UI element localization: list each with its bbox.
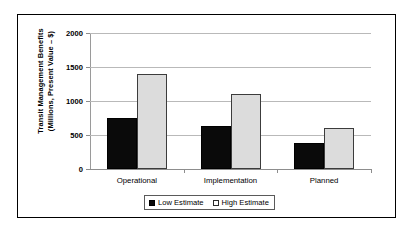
open-square-icon [213, 200, 219, 206]
y-axis-tick-mark [86, 67, 90, 68]
bar-low-estimate [294, 143, 324, 169]
y-axis-title-line-1: Transit Management Benefits [36, 28, 46, 133]
x-axis-tick-mark [184, 169, 185, 173]
bar-high-estimate [137, 74, 167, 169]
y-axis-tick-label: 1000 [66, 97, 83, 106]
plot-area: 2000150010005000 OperationalImplementati… [90, 33, 371, 169]
gridline [90, 169, 371, 170]
filled-square-icon [149, 200, 155, 206]
y-axis-title-line-2: (Millions, Present Value – $) [46, 31, 56, 131]
y-axis-title: Transit Management Benefits (Millions, P… [32, 6, 60, 156]
gridline [90, 33, 371, 34]
gridline [90, 67, 371, 68]
legend-label-low-estimate: Low Estimate [158, 198, 204, 207]
x-axis-label-operational: Operational [117, 176, 157, 185]
bar-low-estimate [201, 126, 231, 169]
legend-entry-high-estimate: High Estimate [213, 198, 269, 207]
legend-label-high-estimate: High Estimate [222, 198, 269, 207]
y-axis-tick-mark [86, 169, 90, 170]
legend-entry-low-estimate: Low Estimate [149, 198, 204, 207]
y-axis-tick-label: 0 [79, 165, 83, 174]
x-axis-tick-mark [371, 169, 372, 173]
x-axis-label-planned: Planned [310, 176, 339, 185]
y-axis-tick-label: 2000 [66, 29, 83, 38]
x-axis-tick-mark [277, 169, 278, 173]
chart-frame: Transit Management Benefits (Millions, P… [17, 14, 396, 218]
bar-high-estimate [324, 128, 354, 169]
y-axis-tick-mark [86, 33, 90, 34]
bar-low-estimate [107, 118, 137, 169]
x-axis-label-implementation: Implementation [204, 176, 257, 185]
chart-legend: Low Estimate High Estimate [144, 195, 275, 210]
y-axis-tick-mark [86, 101, 90, 102]
y-axis-tick-mark [86, 135, 90, 136]
y-axis-tick-label: 500 [70, 131, 83, 140]
bar-high-estimate [231, 94, 261, 169]
y-axis-tick-label: 1500 [66, 63, 83, 72]
